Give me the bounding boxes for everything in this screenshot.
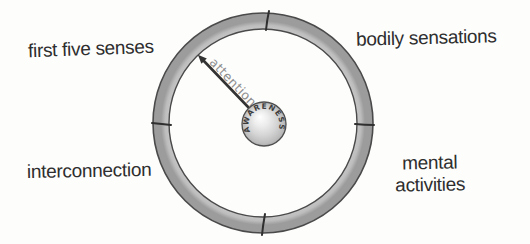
label-mental-activities-line2: activities: [376, 173, 484, 197]
segment-divider-right: [355, 124, 374, 125]
label-bodily-sensations: bodily sensations: [356, 25, 497, 51]
attention-label: attention: [207, 55, 260, 110]
label-interconnection: interconnection: [27, 159, 152, 183]
wheel-of-awareness-diagram: attention AWARENESS first five senses bo…: [0, 0, 530, 244]
label-mental-activities-line1: mental: [376, 151, 484, 175]
label-first-five-senses: first five senses: [28, 36, 155, 62]
label-mental-activities: mental activities: [376, 151, 485, 197]
